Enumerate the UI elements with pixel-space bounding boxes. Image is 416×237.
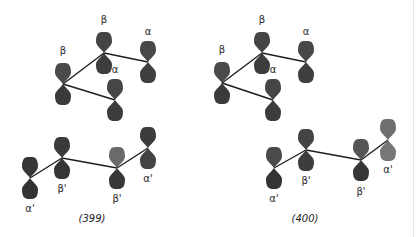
upper-lobe xyxy=(265,79,281,100)
lower-lobe xyxy=(254,53,270,74)
upper-lobe xyxy=(254,32,270,53)
p-orbital-icon xyxy=(380,119,396,161)
upper-lobe xyxy=(96,32,112,53)
p-orbital-icon xyxy=(140,41,156,83)
atom-labels-layer: ββααα'β'β'α'ββααα'β'β'α' xyxy=(25,14,392,214)
atom-position-label: α xyxy=(303,26,310,37)
atom-position-label: β' xyxy=(112,193,121,204)
lower-lobe xyxy=(380,140,396,161)
p-orbital-icon xyxy=(298,41,314,83)
bonds-layer xyxy=(30,53,388,178)
upper-lobe xyxy=(353,139,369,160)
lower-lobe xyxy=(109,168,125,189)
atom-position-label: β' xyxy=(301,175,310,186)
upper-lobe xyxy=(214,62,230,83)
upper-lobe xyxy=(380,119,396,140)
upper-lobe xyxy=(298,129,314,150)
atom-position-label: β xyxy=(219,44,225,55)
atom-position-label: α' xyxy=(143,173,152,184)
lower-lobe xyxy=(266,168,282,189)
lower-lobe xyxy=(96,53,112,74)
upper-lobe xyxy=(298,41,314,62)
upper-lobe xyxy=(140,127,156,148)
upper-lobe xyxy=(55,63,71,84)
upper-lobe xyxy=(107,79,123,100)
page-edge-line xyxy=(413,0,414,237)
lower-lobe xyxy=(298,62,314,83)
p-orbital-icon xyxy=(254,32,270,74)
atom-position-label: β xyxy=(60,45,66,56)
upper-lobe xyxy=(140,41,156,62)
lower-lobe xyxy=(140,62,156,83)
p-orbital-icon xyxy=(55,63,71,105)
lower-lobe xyxy=(265,100,281,121)
p-orbital-icon xyxy=(266,147,282,189)
lower-lobe xyxy=(214,83,230,104)
p-orbital-lobes-layer xyxy=(22,32,396,199)
atom-position-label: α xyxy=(112,64,119,75)
p-orbital-icon xyxy=(54,137,70,179)
atom-position-label: α' xyxy=(25,203,34,214)
lower-lobe xyxy=(107,100,123,121)
orbital-diagram: ββααα'β'β'α'ββααα'β'β'α' (399) (400) xyxy=(0,0,416,237)
atom-position-label: α xyxy=(145,26,152,37)
atom-position-label: β' xyxy=(356,186,365,197)
p-orbital-icon xyxy=(214,62,230,104)
figure-caption-400: (400) xyxy=(292,213,319,224)
lower-lobe xyxy=(22,178,38,199)
atom-position-label: β' xyxy=(57,183,66,194)
sigma-bond-line xyxy=(104,53,148,62)
sigma-bond-line xyxy=(262,53,306,62)
p-orbital-icon xyxy=(140,127,156,169)
atom-position-label: β xyxy=(101,14,107,25)
lower-lobe xyxy=(353,160,369,181)
atom-position-label: α' xyxy=(383,164,392,175)
sigma-bond-line xyxy=(306,150,361,160)
p-orbital-icon xyxy=(109,147,125,189)
p-orbital-icon xyxy=(96,32,112,74)
p-orbital-icon xyxy=(353,139,369,181)
atom-position-label: α' xyxy=(269,193,278,204)
atom-position-label: β xyxy=(259,14,265,25)
sigma-bond-line xyxy=(62,158,117,168)
upper-lobe xyxy=(54,137,70,158)
lower-lobe xyxy=(55,84,71,105)
p-orbital-icon xyxy=(265,79,281,121)
figure-caption-399: (399) xyxy=(79,213,106,224)
p-orbital-icon xyxy=(22,157,38,199)
p-orbital-icon xyxy=(298,129,314,171)
p-orbital-icon xyxy=(107,79,123,121)
atom-position-label: α xyxy=(270,64,277,75)
